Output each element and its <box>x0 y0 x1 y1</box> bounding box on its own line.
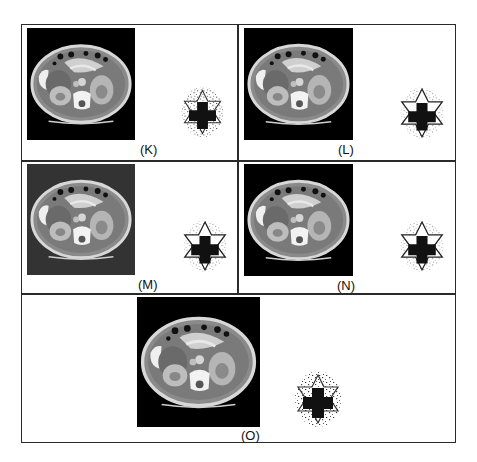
panel-label-k: (K) <box>140 142 157 157</box>
ct-scan-image-l <box>244 28 353 140</box>
ct-scan-image-n <box>244 164 353 276</box>
ct-scan-image-m <box>27 164 135 275</box>
grid-divider-horizontal-2 <box>22 293 455 295</box>
panel-label-l: (L) <box>338 142 354 157</box>
star-cross-watermark-icon <box>399 85 445 141</box>
figure-grid: (K) (L) (M) (N) <box>21 24 456 443</box>
watermark-image-m <box>182 217 228 275</box>
watermark-image-o <box>293 369 343 429</box>
watermark-image-l <box>399 85 445 141</box>
panel-label-n: (N) <box>337 278 355 293</box>
abdominal-ct-icon <box>244 28 353 140</box>
grid-divider-vertical <box>237 25 239 293</box>
abdominal-ct-icon <box>27 28 135 140</box>
watermark-image-k <box>180 83 225 141</box>
watermark-image-n <box>399 217 445 275</box>
panel-label-o: (O) <box>241 428 260 443</box>
star-cross-watermark-icon <box>293 369 343 429</box>
star-cross-watermark-icon <box>180 83 225 141</box>
abdominal-ct-icon <box>244 164 353 276</box>
grid-divider-horizontal-1 <box>22 160 455 162</box>
panel-label-m: (M) <box>138 277 158 292</box>
abdominal-ct-icon <box>27 164 135 275</box>
abdominal-ct-icon <box>137 297 260 427</box>
ct-scan-image-k <box>27 28 135 140</box>
ct-scan-image-o <box>137 297 260 427</box>
star-cross-watermark-icon <box>399 217 445 275</box>
star-cross-watermark-icon <box>182 217 228 275</box>
